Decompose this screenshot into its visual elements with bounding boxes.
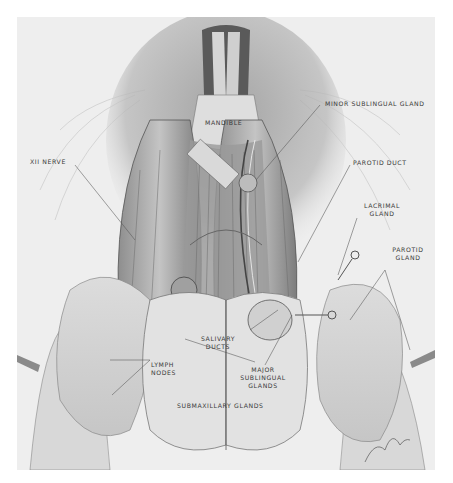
parotid-gland-right <box>317 284 403 441</box>
parotid-gland-left <box>57 277 153 436</box>
label-parotid-gland: PAROTID GLAND <box>383 246 433 262</box>
label-salivary-line2: DUCTS <box>193 343 243 351</box>
label-major-sublingual-glands: MAJOR SUBLINGUAL GLANDS <box>233 366 293 390</box>
label-minor-sublingual-gland: MINOR SUBLINGUAL GLAND <box>325 100 425 108</box>
forceps-right <box>410 350 435 368</box>
label-submaxillary-glands: SUBMAXILLARY GLANDS <box>177 402 264 410</box>
label-lymph-line2: NODES <box>151 369 176 377</box>
major-sublingual-gland <box>248 300 292 340</box>
label-parotid-line1: PAROTID <box>383 246 433 254</box>
label-lacrimal-gland: LACRIMAL GLAND <box>357 202 407 218</box>
label-major-line1: MAJOR <box>233 366 293 374</box>
forceps-left <box>17 355 40 372</box>
label-parotid-line2: GLAND <box>383 254 433 262</box>
label-lacrimal-line2: GLAND <box>357 210 407 218</box>
label-xii-nerve: XII NERVE <box>30 158 66 166</box>
incisors <box>202 25 250 103</box>
label-parotid-duct: PAROTID DUCT <box>353 159 407 167</box>
minor-sublingual-gland <box>239 174 257 192</box>
label-lacrimal-line1: LACRIMAL <box>357 202 407 210</box>
label-salivary-ducts: SALIVARY DUCTS <box>193 335 243 351</box>
label-mandible: MANDIBLE <box>205 119 242 127</box>
label-major-line2: SUBLINGUAL <box>233 374 293 382</box>
label-lymph-nodes: LYMPH NODES <box>151 361 176 377</box>
label-major-line3: GLANDS <box>233 382 293 390</box>
illustration-plate: MANDIBLE MINOR SUBLINGUAL GLAND XII NERV… <box>17 17 435 470</box>
label-salivary-line1: SALIVARY <box>193 335 243 343</box>
label-lymph-line1: LYMPH <box>151 361 176 369</box>
